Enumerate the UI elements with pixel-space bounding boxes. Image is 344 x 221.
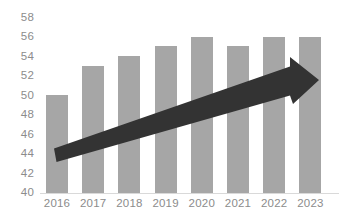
y-axis-tick-label: 46 — [8, 129, 34, 141]
y-axis-tick-label: 58 — [8, 12, 34, 24]
bar-2016 — [46, 95, 68, 193]
bar-2019 — [155, 46, 177, 193]
y-axis-tick-label: 40 — [8, 187, 34, 199]
y-axis-tick-label: 52 — [8, 70, 34, 82]
x-axis-line — [40, 193, 339, 194]
x-axis-tick-label: 2016 — [37, 198, 77, 210]
x-axis-tick-label: 2020 — [182, 198, 222, 210]
y-axis-tick-label: 44 — [8, 148, 34, 160]
x-axis-tick-label: 2019 — [146, 198, 186, 210]
bar-2022 — [263, 37, 285, 193]
y-axis-tick-label: 50 — [8, 90, 34, 102]
bar-2023 — [299, 37, 321, 193]
y-axis-tick-label: 48 — [8, 109, 34, 121]
x-axis-tick-label: 2018 — [109, 198, 149, 210]
x-axis-tick-label: 2021 — [218, 198, 258, 210]
bar-2020 — [191, 37, 213, 193]
bar-chart: 58 56 54 52 50 48 46 44 42 40 2016 2017 … — [0, 0, 344, 221]
x-axis-tick-label: 2023 — [290, 198, 330, 210]
bar-2017 — [82, 66, 104, 193]
y-axis-tick-label: 42 — [8, 168, 34, 180]
x-axis-tick-label: 2017 — [73, 198, 113, 210]
y-axis-tick-label: 56 — [8, 31, 34, 43]
bar-2018 — [118, 56, 140, 193]
bar-2021 — [227, 46, 249, 193]
x-axis-tick-label: 2022 — [254, 198, 294, 210]
y-axis-tick-label: 54 — [8, 51, 34, 63]
